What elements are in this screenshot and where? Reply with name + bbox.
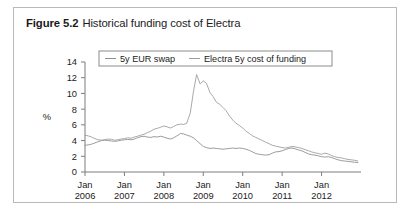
x-tick-label-month-2012: Jan [314, 180, 329, 190]
x-tick-label-year-2006: 2006 [75, 191, 96, 201]
chart-series-group [85, 75, 358, 163]
chart-legend: 5y EUR swap Electra 5y cost of funding [99, 51, 332, 66]
x-tick-label-year-2011: 2011 [272, 191, 292, 201]
figure-container: Figure 5.2Historical funding cost of Ele… [13, 7, 397, 203]
x-tick-label-month-2009: Jan [196, 180, 211, 190]
x-tick-label-year-2009: 2009 [193, 191, 214, 201]
y-axis-ticks [81, 62, 85, 172]
x-tick-label-year-2008: 2008 [154, 191, 175, 201]
y-tick-label-4: 4 [72, 136, 77, 146]
chart-plot-region: 02468101214 Jan2006Jan2007Jan2008Jan2009… [14, 8, 398, 204]
y-tick-label-2: 2 [72, 152, 77, 162]
x-tick-label-year-2007: 2007 [114, 191, 135, 201]
y-axis-label: % [43, 112, 51, 122]
y-tick-label-14: 14 [67, 57, 77, 67]
x-tick-label-year-2010: 2010 [232, 191, 253, 201]
x-tick-label-month-2011: Jan [275, 180, 290, 190]
y-tick-label-10: 10 [67, 89, 77, 99]
series-line-1 [85, 75, 358, 161]
x-tick-label-month-2006: Jan [78, 180, 93, 190]
legend-label-5y-eur-swap: 5y EUR swap [120, 54, 175, 64]
y-tick-label-12: 12 [67, 73, 77, 83]
legend-label-electra-cost-of-funding: Electra 5y cost of funding [204, 54, 306, 64]
y-tick-label-6: 6 [72, 120, 77, 130]
x-tick-label-month-2008: Jan [156, 180, 171, 190]
line-chart: 02468101214 Jan2006Jan2007Jan2008Jan2009… [14, 8, 398, 204]
x-tick-label-year-2012: 2012 [311, 191, 332, 201]
x-tick-label-month-2010: Jan [235, 180, 250, 190]
y-tick-label-8: 8 [72, 105, 77, 115]
x-axis-tick-labels: Jan2006Jan2007Jan2008Jan2009Jan2010Jan20… [75, 180, 332, 201]
y-tick-label-0: 0 [72, 167, 77, 177]
y-axis-tick-labels: 02468101214 [67, 57, 77, 177]
x-axis-ticks [85, 172, 322, 176]
x-tick-label-month-2007: Jan [117, 180, 132, 190]
